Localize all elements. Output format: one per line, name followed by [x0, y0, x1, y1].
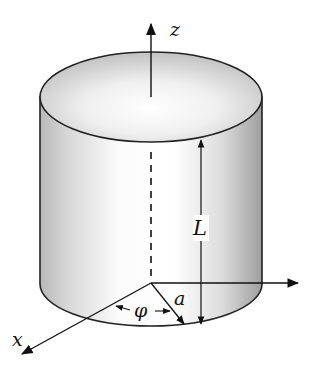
radius-label: a: [174, 287, 185, 309]
angle-label: φ: [134, 299, 148, 321]
x-axis-label: x: [12, 328, 23, 350]
z-axis-label: z: [169, 18, 181, 40]
cylinder-diagram: z x L a φ: [0, 0, 310, 378]
length-label: L: [192, 216, 207, 240]
